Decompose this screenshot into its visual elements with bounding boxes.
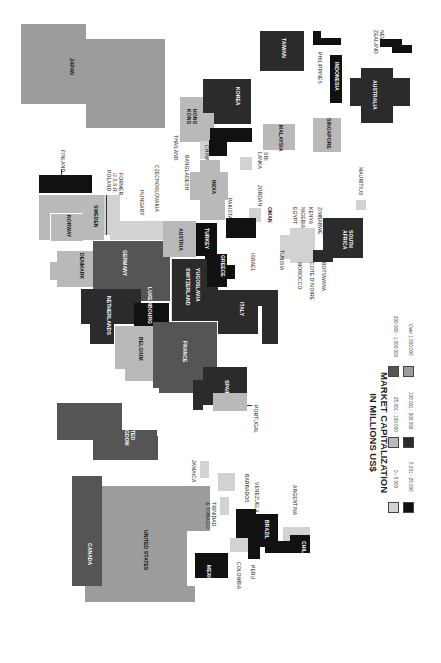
- label-oman: OMAN: [267, 207, 273, 223]
- country-belgium-part: [125, 369, 155, 381]
- label-us: UNITED STATES: [143, 530, 149, 570]
- label-venezuela: VENEZUELA: [254, 482, 260, 513]
- label-colombia: COLOMBIA: [236, 562, 242, 589]
- label-china: CHINA: [204, 145, 210, 161]
- country-finland: [39, 175, 92, 193]
- label-peru: PERU: [250, 565, 256, 579]
- label-indonesia: INDONESIA: [334, 62, 340, 91]
- label-botswana: BOTSWANA: [321, 262, 327, 291]
- legend-swatch-over-1000000: [403, 366, 414, 377]
- country-india-part: [200, 160, 220, 174]
- label-belgium: BELGIUM: [138, 337, 144, 361]
- label-tunisia: TUNISIA: [279, 250, 285, 270]
- cartogram-map: JAPAN FINLAND SWEDEN NORWAY POLAND FORME…: [0, 0, 441, 663]
- label-chile: CHILE: [301, 541, 307, 557]
- label-hungary: HUNGARY: [139, 190, 145, 216]
- label-austria: AUSTRIA: [178, 228, 184, 251]
- country-southafrica-part: [313, 250, 333, 262]
- label-morocco: MOROCCO: [297, 262, 303, 289]
- label-ussr: FORMER U.S.S.R.: [112, 173, 123, 195]
- label-egypt: EGYPT: [292, 207, 298, 224]
- label-brazil: BRAZIL: [264, 520, 270, 539]
- label-jamaica: JAMAICA: [191, 460, 197, 482]
- legend-swatch-200000-1000000: [388, 366, 399, 377]
- label-australia: AUSTRALIA: [372, 80, 378, 110]
- label-korea: KOREA: [235, 87, 241, 106]
- country-uk-part: [57, 430, 157, 440]
- label-barbados: BARBADOS: [244, 474, 250, 503]
- legend-swatch-5001-25000: [403, 502, 414, 513]
- label-czech: CZECHOSLOVAKIA: [154, 165, 160, 212]
- label-hongkong: HONG KONG: [186, 109, 197, 124]
- leader-line: [247, 405, 252, 406]
- legend-title: MARKET CAPITALIZATION IN MILLIONS US$: [368, 372, 390, 493]
- country-korea: [203, 79, 251, 113]
- country-barbados: [218, 473, 235, 491]
- label-jordan: JORDAN: [257, 185, 263, 206]
- legend-swatch-25001-100000: [388, 437, 399, 448]
- country-italy-part: [258, 290, 278, 306]
- label-yugoslavia: YUGOSLAVIA: [195, 268, 201, 302]
- label-germany: GERMANY: [122, 250, 128, 276]
- country-denmark-part: [50, 262, 60, 280]
- label-japan: JAPAN: [69, 58, 75, 75]
- country-trinidad: [220, 497, 229, 515]
- label-kenya: KENYA: [308, 207, 314, 224]
- label-canada: CANADA: [87, 543, 93, 565]
- label-portugal: PORTUGAL: [253, 405, 259, 433]
- legend-swatch-100001-200000: [403, 437, 414, 448]
- label-uk: UNITED KINGDOM: [124, 421, 135, 446]
- label-trinidad: TRINIDAD & TOBAGO: [205, 502, 216, 529]
- label-singapore: SINGAPORE: [326, 118, 332, 149]
- country-portugal: [213, 393, 247, 411]
- label-india: INDIA: [211, 180, 217, 194]
- country-israel: [226, 218, 256, 238]
- label-srilanka: SRI LANKA: [257, 152, 268, 169]
- country-australia-part: [350, 78, 410, 106]
- label-france: FRANCE: [182, 341, 188, 362]
- label-norway: NORWAY: [66, 215, 72, 238]
- country-greece-part: [227, 265, 235, 279]
- label-switzerland: SWITZERLAND: [185, 268, 191, 305]
- legend-label-over-1000000: Over 1,000,000: [408, 324, 413, 356]
- label-finland: FINLAND: [60, 150, 66, 172]
- country-korea-part: [214, 113, 251, 124]
- label-bangladesh: BANGLADESH: [184, 155, 190, 190]
- label-philippines: PHILIPPINES: [317, 52, 323, 84]
- label-sweden: SWEDEN: [93, 205, 99, 228]
- country-italy-part: [262, 306, 278, 344]
- legend-swatch-0-5000: [388, 502, 399, 513]
- country-japan-part: [21, 39, 111, 104]
- label-argentina: ARGENTINA: [292, 485, 298, 515]
- country-us-part: [85, 586, 195, 602]
- country-belgium: [115, 326, 155, 369]
- country-france-part: [159, 388, 197, 393]
- legend-label-100001-200000: 100,001 - 200,000: [408, 392, 413, 429]
- country-spain-part: [193, 380, 203, 410]
- label-luxembourg: LUXEMBOURG: [147, 287, 153, 324]
- country-jamaica: [200, 461, 209, 478]
- label-greece: GREECE: [220, 255, 226, 277]
- label-italy: ITALY: [239, 302, 245, 316]
- label-thailand: THAILAND: [173, 135, 179, 161]
- country-us-part: [140, 486, 210, 531]
- label-mexico: MEXICO: [206, 565, 212, 585]
- label-zimbabwe: ZIMBABWE: [317, 207, 323, 234]
- label-cotedivoire: COTE D'IVOIRE: [309, 262, 315, 300]
- country-india: [190, 172, 228, 200]
- label-newzealand: NEW ZEALAND: [373, 30, 384, 54]
- label-taiwan: TAIWAN: [281, 38, 287, 58]
- label-malaysia: MALAYSIA: [278, 125, 284, 151]
- country-philippines-part: [313, 38, 341, 45]
- country-pakistan: [200, 200, 225, 220]
- country-peru: [248, 547, 260, 559]
- label-netherlands: NETHERLANDS: [106, 296, 112, 335]
- country-hungary: [110, 221, 163, 240]
- legend-label-0-5000: 0 - 5,000: [393, 470, 398, 488]
- label-israel: ISRAEL: [250, 253, 256, 271]
- country-thailand-part: [209, 140, 227, 156]
- leader-line: [106, 195, 107, 235]
- legend-label-5001-25000: 5,001 - 25,000: [408, 462, 413, 492]
- country-denmark: [57, 251, 93, 287]
- label-nigeria: NIGERIA: [300, 207, 306, 228]
